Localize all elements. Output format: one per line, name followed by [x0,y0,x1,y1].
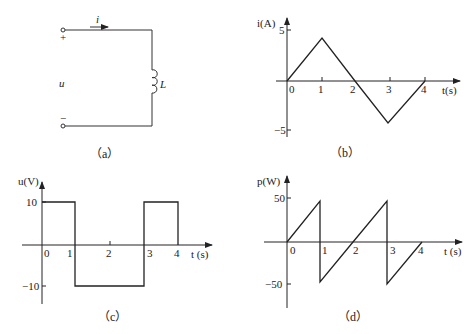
chart-b-axes [276,18,460,137]
ytick-d-50: 50 [274,192,286,204]
xtick-d-3: 3 [390,244,396,256]
ytick-b-neg5: −5 [274,124,286,136]
xlabel-c: t (s) [191,248,209,261]
ytick-c-neg10: −10 [22,280,40,292]
xtick-c-3: 3 [147,247,153,259]
xlabel-d: t (s) [444,245,462,258]
inductor-label: L [159,78,166,90]
xtick-d-4: 4 [418,244,424,256]
xtick-b-4: 4 [421,83,427,95]
ytick-b-5: 5 [279,24,285,36]
xtick-d-0: 0 [290,244,296,256]
caption-d: （d） [338,310,368,324]
ylabel-d: p(W) [257,175,281,188]
xtick-d-2: 2 [353,244,359,256]
xtick-c-4: 4 [174,247,180,259]
xtick-c-1: 1 [67,247,73,259]
xtick-b-0: 0 [289,83,295,95]
current-label: i [96,13,99,25]
caption-a: （a） [90,147,119,161]
xtick-b-3: 3 [386,83,392,95]
xtick-b-2: 2 [350,83,356,95]
circuit-diagram [61,27,157,128]
chart-d-axes [264,176,462,308]
plus-sign: + [60,31,66,43]
xtick-c-0: 0 [44,247,50,259]
xtick-b-1: 1 [318,83,324,95]
voltage-label: u [59,77,65,89]
caption-c: （c） [98,310,127,324]
xtick-d-1: 1 [322,244,328,256]
figure-svg: i + − u L （a） i(A) 5 −5 0 1 2 3 4 t(s) （… [0,0,473,334]
inductor-coil-icon [152,70,157,93]
xlabel-b: t(s) [442,84,457,97]
ytick-c-10: 10 [26,196,38,208]
ylabel-b: i(A) [257,17,276,30]
caption-b: （b） [330,146,360,160]
minus-sign: − [60,112,66,124]
ylabel-c: u(V) [18,175,39,188]
terminal-bottom [61,124,65,128]
xtick-c-2: 2 [106,247,112,259]
figure-canvas: i + − u L （a） i(A) 5 −5 0 1 2 3 4 t(s) （… [0,0,473,334]
ytick-d-neg50: −50 [265,278,283,290]
